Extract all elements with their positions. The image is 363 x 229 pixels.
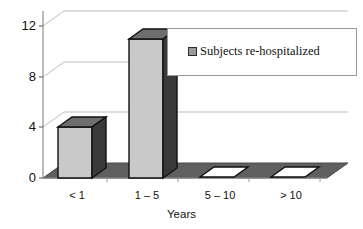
bar-series-subjects-re-hospitalized-item-0 [58, 117, 106, 178]
y-tick-label-8: 8 [8, 69, 36, 84]
y-axis [39, 11, 43, 178]
chart-legend: Subjects re-hospitalized [167, 28, 357, 76]
y-tick-label-4: 4 [8, 119, 36, 134]
y-tick-label-0: 0 [8, 170, 36, 185]
gridline-top [43, 11, 348, 26]
x-category-label-0: < 1 [47, 189, 107, 201]
x-axis-title: Years [0, 208, 363, 220]
x-category-label-1: 1 – 5 [117, 189, 177, 201]
y-tick-label-12: 12 [8, 18, 36, 33]
legend-item-subjects-re-hospitalized: Subjects re-hospitalized [188, 44, 320, 59]
bar-front-face-0 [58, 127, 92, 178]
x-category-label-3: > 10 [261, 189, 321, 201]
bar-front-face-1 [129, 39, 163, 178]
legend-item-label: Subjects re-hospitalized [200, 44, 320, 59]
legend-swatch-icon [188, 47, 197, 56]
bar-chart: 12 8 4 0 < 1 1 – 5 5 – 10 > 10 Years Sub… [0, 0, 363, 229]
x-category-label-2: 5 – 10 [188, 189, 252, 201]
bar-side-face-0 [92, 117, 106, 178]
